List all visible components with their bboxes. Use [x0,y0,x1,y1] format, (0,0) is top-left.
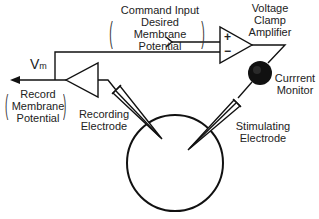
vm-label: Vm [30,58,47,72]
current-monitor-icon [248,61,272,85]
right-paren: ) [201,16,205,50]
record-line3: Potential [8,112,68,124]
re-line1: Recording [74,108,134,120]
record-membrane-label: Record Membrane Potential [8,88,68,124]
right-paren-2: ) [63,88,66,122]
voltage-clamp-diagram: + − Command Input Desired Membrane Poten… [0,0,319,219]
record-line1: Record [8,88,68,100]
vca-line2: Clamp [230,14,310,26]
current-monitor-label: Currrent Monitor [270,72,319,96]
recording-amplifier-icon [66,63,98,97]
left-paren: ( [109,16,113,50]
stimulating-electrode-label: Stimulating Electrode [228,120,298,144]
cm-line1: Currrent [270,72,319,84]
vca-line3: Amplifier [230,26,310,38]
cm-line2: Monitor [270,84,319,96]
vca-line1: Voltage [230,2,310,14]
record-line2: Membrane [8,100,68,112]
voltage-clamp-amplifier-label: Voltage Clamp Amplifier [230,2,310,38]
vm-main: V [30,56,39,72]
re-line2: Electrode [74,120,134,132]
se-line2: Electrode [228,132,298,144]
recording-electrode-label: Recording Electrode [74,108,134,132]
vm-output-arrow-icon [10,76,20,84]
command-input-line1: Command Input [90,4,230,16]
vm-sub: m [39,61,47,71]
se-line1: Stimulating [228,120,298,132]
left-paren-2: ( [5,88,8,122]
